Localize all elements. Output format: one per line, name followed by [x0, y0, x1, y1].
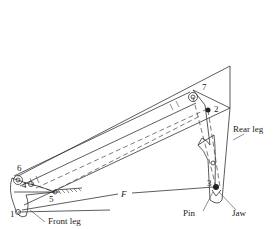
label-pin-3: 3: [207, 178, 212, 188]
label-pin: Pin: [183, 208, 196, 218]
label-pin-1: 1: [10, 209, 15, 219]
rear-leg: [193, 90, 230, 203]
mechanism-diagram: 6 7 2 4 5 1 3 F Front leg Rear leg Pin J…: [0, 0, 274, 229]
label-pin-5: 5: [49, 194, 54, 204]
pin-2-circle: [206, 108, 211, 113]
label-pin-6: 6: [17, 163, 22, 173]
pin-3-circle: [213, 184, 219, 190]
label-force: F: [120, 189, 127, 199]
label-jaw: Jaw: [232, 208, 246, 218]
label-front-leg: Front leg: [48, 216, 81, 226]
upper-link: [14, 92, 196, 186]
label-rear-leg: Rear leg: [233, 124, 264, 134]
outer-frame: [18, 66, 230, 205]
label-pin-7: 7: [202, 82, 207, 92]
leader-lines: [30, 134, 244, 222]
label-pin-4: 4: [22, 180, 27, 190]
label-pin-2: 2: [214, 104, 219, 114]
dashed-links: [31, 97, 220, 192]
pins: [14, 93, 222, 215]
